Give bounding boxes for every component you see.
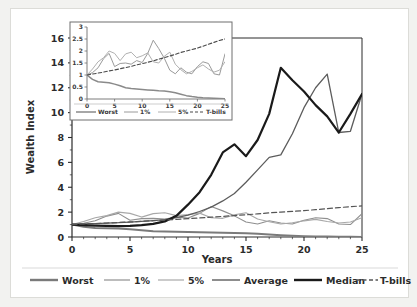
- y-tick-label: 2: [57, 207, 64, 218]
- inset-y-tick-label: 3: [79, 23, 83, 30]
- inset-y-tick-label: 0: [79, 95, 83, 102]
- inset-chart: 00.511.522.53 0510152025 Worst1%5%T-bill…: [70, 22, 232, 120]
- y-tick-label: 8: [57, 132, 64, 143]
- x-axis-title: Years: [201, 254, 233, 265]
- inset-y-tick-label: 2.5: [72, 35, 83, 42]
- x-tick-label: 5: [127, 244, 134, 255]
- x-tick-label: 10: [181, 244, 195, 255]
- figure-page: 0246810121416 0510152025 Wealth Index Ye…: [0, 0, 417, 307]
- legend-label-t-bills: T-bills: [380, 275, 412, 286]
- x-tick-label: 0: [69, 244, 76, 255]
- x-tick-label: 15: [239, 244, 252, 255]
- y-tick-label: 16: [51, 33, 65, 44]
- y-axis-title: Wealth Index: [25, 99, 36, 174]
- inset-legend-label: Worst: [98, 108, 118, 115]
- inset-y-tick-label: 2: [79, 47, 83, 54]
- y-tick-label: 10: [51, 107, 65, 118]
- wealth-index-chart: 0246810121416 0510152025 Wealth Index Ye…: [0, 0, 417, 307]
- inset-legend-label: T-bills: [206, 108, 226, 115]
- y-axis-ticks: 0246810121416: [51, 33, 72, 243]
- y-tick-label: 6: [57, 157, 64, 168]
- y-tick-label: 14: [51, 57, 65, 68]
- x-axis-ticks: 0510152025: [69, 237, 369, 255]
- legend-label-1-: 1%: [134, 275, 151, 286]
- y-tick-label: 0: [57, 232, 64, 243]
- inset-x-tick-label: 20: [193, 102, 201, 109]
- inset-y-tick-label: 0.5: [72, 83, 83, 90]
- x-tick-label: 20: [297, 244, 311, 255]
- legend-label-average: Average: [244, 275, 288, 286]
- y-tick-label: 12: [51, 82, 64, 93]
- inset-legend-label: 5%: [178, 108, 188, 115]
- legend-label-worst: Worst: [62, 275, 94, 286]
- y-tick-label: 4: [57, 182, 64, 193]
- inset-legend-label: 1%: [140, 108, 150, 115]
- legend-label-5-: 5%: [188, 275, 205, 286]
- inset-x-tick-label: 15: [166, 102, 174, 109]
- inset-y-tick-label: 1: [79, 71, 83, 78]
- main-legend: Worst1%5%AverageMedianT-bills: [30, 275, 412, 286]
- x-tick-label: 25: [355, 244, 368, 255]
- inset-y-tick-label: 1.5: [72, 59, 83, 66]
- inset-x-tick-label: 0: [85, 102, 89, 109]
